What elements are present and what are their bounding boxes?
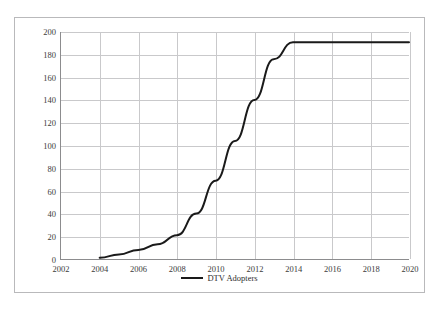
plot-area: 020406080100120140160180200 200220042006…	[60, 32, 409, 260]
y-tick-label: 120	[43, 119, 56, 128]
y-tick-label: 140	[43, 96, 56, 105]
y-tick-label: 200	[43, 28, 56, 37]
legend-line-swatch	[181, 277, 203, 279]
series-path	[100, 42, 409, 258]
y-tick-label: 80	[48, 165, 57, 174]
y-tick-label: 100	[43, 142, 56, 151]
legend-item-label: DTV Adopters	[207, 273, 257, 283]
chart-frame: 020406080100120140160180200 200220042006…	[14, 17, 425, 293]
y-tick-label: 60	[48, 187, 57, 196]
y-tick-label: 160	[43, 73, 56, 82]
y-tick-label: 180	[43, 51, 56, 60]
top-caption	[18, 0, 418, 12]
y-tick-label: 0	[52, 256, 56, 265]
series-line-dtv-adopters	[61, 32, 409, 259]
y-tick-label: 20	[48, 233, 57, 242]
chart-legend: DTV Adopters	[15, 273, 424, 283]
gridline-vertical	[410, 32, 411, 259]
y-tick-label: 40	[48, 210, 57, 219]
